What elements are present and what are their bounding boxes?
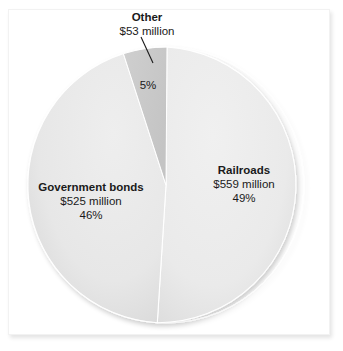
slice-label-railroads-percent: 49% [186,191,302,205]
slice-label-railroads-name: Railroads [186,163,302,177]
slice-label-government-bonds: Government bonds $525 million 46% [22,180,160,222]
pie-chart-figure: Other $53 million 5% Railroads $559 mill… [0,0,343,351]
slice-label-other: Other $53 million [86,10,208,38]
slice-label-government-bonds-name: Government bonds [22,180,160,194]
chart-plot-area: Other $53 million 5% Railroads $559 mill… [0,0,343,351]
slice-label-railroads-value: $559 million [186,177,302,191]
slice-label-government-bonds-value: $525 million [22,194,160,208]
slice-label-government-bonds-percent: 46% [22,208,160,222]
slice-percent-other: 5% [131,79,165,91]
slice-label-other-name: Other [86,10,208,24]
slice-label-other-value: $53 million [86,24,208,38]
slice-label-railroads: Railroads $559 million 49% [186,163,302,205]
